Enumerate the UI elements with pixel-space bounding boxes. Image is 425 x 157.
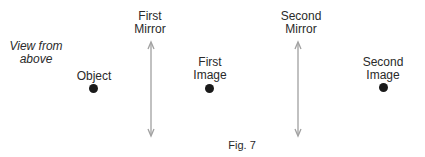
first-mirror-arrow [148, 42, 154, 136]
second-mirror-arrow [295, 42, 301, 136]
figure-caption: Fig. 7 [222, 139, 262, 152]
mirror-arrows [0, 0, 425, 157]
